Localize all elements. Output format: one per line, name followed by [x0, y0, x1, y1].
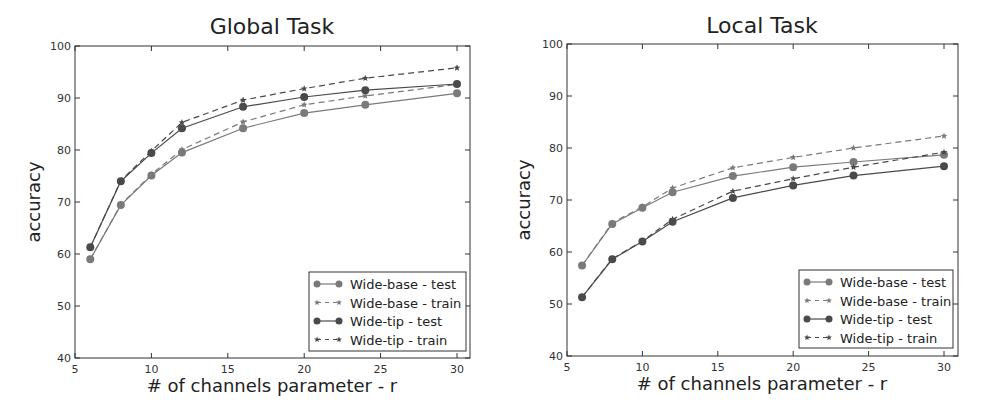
circle-marker-icon	[239, 124, 247, 132]
star-marker-icon	[240, 118, 247, 124]
circle-marker-icon	[453, 80, 461, 88]
star-marker-icon	[790, 175, 797, 181]
y-tick-label: 40	[549, 350, 563, 363]
series-wide-tip-test	[86, 80, 461, 251]
star-marker-icon	[240, 97, 247, 103]
circle-marker-icon	[314, 318, 321, 325]
series-wide-base-test	[578, 151, 948, 270]
legend-label: Wide-base - test	[350, 277, 456, 292]
x-tick-label: 5	[564, 361, 571, 374]
y-tick-label: 70	[57, 196, 71, 209]
series-wide-base-train	[87, 81, 460, 262]
circle-marker-icon	[789, 163, 797, 171]
y-tick-label: 50	[549, 298, 563, 311]
legend-label: Wide-base - train	[350, 296, 461, 311]
chart-title: Global Task	[210, 14, 335, 39]
y-tick-label: 90	[57, 92, 71, 105]
x-tick-label: 30	[450, 363, 464, 376]
series-line	[90, 85, 457, 260]
circle-marker-icon	[826, 279, 833, 286]
data-series	[86, 64, 461, 263]
y-tick-label: 70	[549, 194, 563, 207]
y-tick-label: 100	[542, 38, 563, 51]
series-line	[90, 93, 457, 259]
y-tick-label: 80	[549, 142, 563, 155]
legend-label: Wide-tip - test	[840, 312, 932, 327]
y-tick-label: 50	[57, 300, 71, 313]
circle-marker-icon	[336, 318, 343, 325]
circle-marker-icon	[239, 103, 247, 111]
legend-label: Wide-tip - train	[840, 331, 937, 346]
legend-label: Wide-base - train	[840, 294, 951, 309]
circle-marker-icon	[940, 162, 948, 170]
legend: Wide-base - testWide-base - trainWide-ti…	[799, 270, 953, 348]
legend-label: Wide-tip - test	[350, 314, 442, 329]
series-line	[90, 68, 457, 247]
circle-marker-icon	[300, 93, 308, 101]
star-marker-icon	[850, 145, 857, 151]
series-line	[90, 84, 457, 247]
circle-marker-icon	[336, 281, 343, 288]
y-tick-label: 90	[549, 90, 563, 103]
figure: Global Task 405060708090100 51015202530 …	[0, 0, 989, 409]
series-line	[582, 136, 944, 266]
legend-label: Wide-tip - train	[350, 333, 447, 348]
circle-marker-icon	[850, 172, 858, 180]
x-axis-label: # of channels parameter - r	[637, 373, 888, 394]
circle-marker-icon	[789, 181, 797, 189]
circle-marker-icon	[729, 172, 737, 180]
star-marker-icon	[301, 101, 308, 107]
star-marker-icon	[301, 85, 308, 91]
local-task-chart: Local Task 405060708090100 51015202530 #…	[513, 13, 958, 394]
star-marker-icon	[454, 64, 461, 70]
global-task-chart: Global Task 405060708090100 51015202530 …	[23, 14, 470, 396]
y-tick-label: 100	[50, 40, 71, 53]
circle-marker-icon	[826, 316, 833, 323]
circle-marker-icon	[729, 194, 737, 202]
y-axis-label: accuracy	[23, 161, 44, 243]
x-tick-label: 5	[72, 363, 79, 376]
legend-label: Wide-base - test	[840, 275, 946, 290]
star-marker-icon	[730, 188, 737, 194]
x-axis-label: # of channels parameter - r	[147, 375, 398, 396]
star-marker-icon	[790, 154, 797, 160]
circle-marker-icon	[361, 101, 369, 109]
y-tick-label: 60	[549, 246, 563, 259]
series-wide-tip-train	[87, 64, 460, 250]
star-marker-icon	[941, 133, 948, 139]
circle-marker-icon	[804, 279, 811, 286]
y-tick-label: 60	[57, 248, 71, 261]
circle-marker-icon	[804, 316, 811, 323]
y-tick-label: 80	[57, 144, 71, 157]
x-tick-label: 30	[937, 361, 951, 374]
series-wide-base-train	[579, 133, 948, 269]
star-marker-icon	[362, 75, 369, 81]
star-marker-icon	[730, 164, 737, 170]
legend: Wide-base - testWide-base - trainWide-ti…	[309, 272, 466, 351]
series-wide-base-test	[86, 89, 461, 263]
chart-title: Local Task	[706, 13, 818, 38]
y-axis-label: accuracy	[513, 159, 534, 241]
circle-marker-icon	[361, 86, 369, 94]
circle-marker-icon	[314, 281, 321, 288]
circle-marker-icon	[453, 89, 461, 97]
y-tick-label: 40	[57, 352, 71, 365]
circle-marker-icon	[300, 109, 308, 117]
